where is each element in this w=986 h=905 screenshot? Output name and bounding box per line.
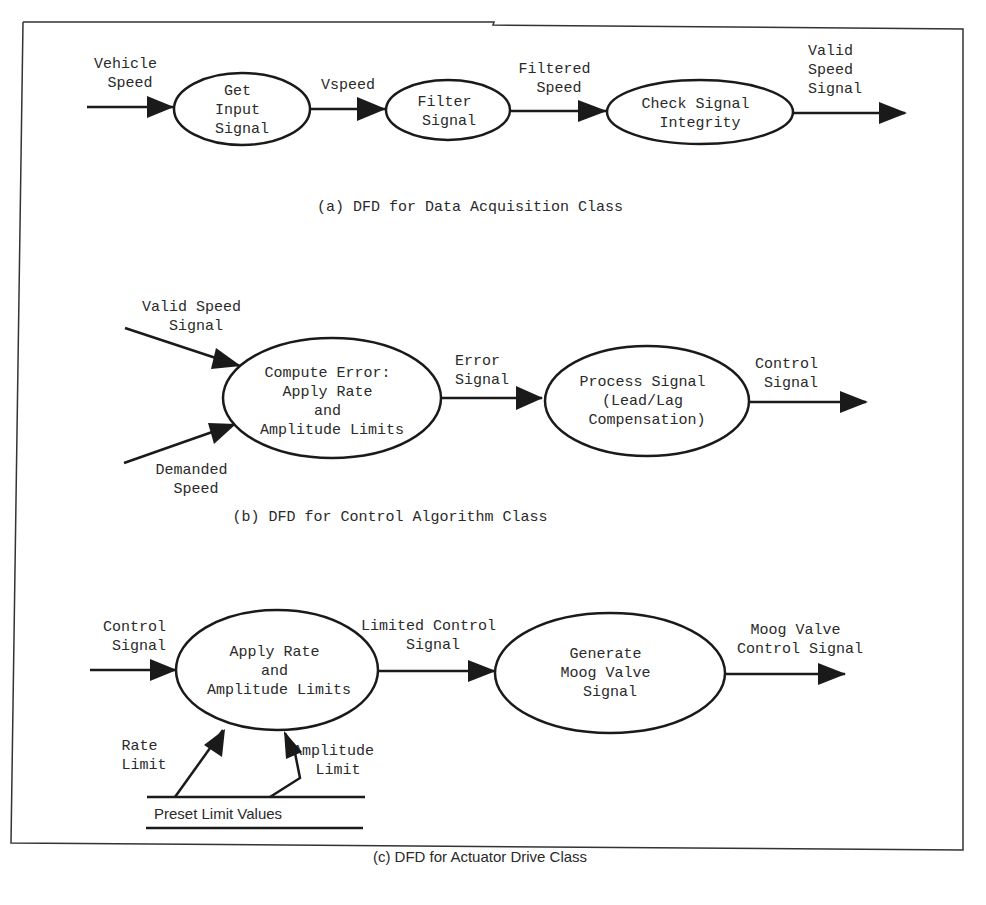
- panel-b: Valid Speed Signal Demanded Speed Comput…: [124, 299, 868, 526]
- flow-label-filtered-speed: Filtered Speed: [518, 61, 599, 97]
- flow-label-valid-speed-signal: Valid Speed Signal: [142, 299, 250, 335]
- arrowhead-icon: [516, 386, 543, 410]
- flow-label-moog-valve-control-signal: Moog Valve Control Signal: [737, 622, 863, 658]
- panel-a: Vehicle Speed Get Input Signal Vspeed Fi…: [87, 43, 907, 216]
- process-label: Process Signal (Lead/Lag Compensation): [579, 374, 714, 429]
- flow-label-control-signal: Control Signal: [755, 356, 827, 392]
- arrowhead-icon: [840, 391, 868, 413]
- flow-label-valid-speed-signal: Valid Speed Signal: [808, 43, 862, 98]
- arrowhead-icon: [468, 660, 496, 682]
- arrowhead-icon: [818, 663, 846, 685]
- flow-label-control-signal: Control Signal: [103, 619, 175, 655]
- panel-caption: (a) DFD for Data Acquisition Class: [317, 199, 623, 216]
- flow-label-limited-control-signal: Limited Control Signal: [361, 618, 505, 654]
- flow-label-demanded-speed: Demanded Speed: [155, 462, 236, 498]
- process-label: Check Signal Integrity: [641, 96, 758, 132]
- flow-label-vspeed: Vspeed: [321, 77, 375, 94]
- flow-label-amplitude-limit: Amplitude Limit: [293, 743, 383, 779]
- arrowhead-icon: [211, 348, 241, 369]
- arrowhead-icon: [147, 96, 174, 118]
- figure-frame: [11, 22, 963, 850]
- process-label: Generate Moog Valve Signal: [560, 646, 659, 701]
- flow-label-error-signal: Error Signal: [455, 353, 509, 389]
- process-label: Apply Rate and Amplitude Limits: [207, 644, 351, 699]
- arrowhead-icon: [150, 659, 177, 681]
- panel-c: Control Signal Apply Rate and Amplitude …: [90, 610, 863, 865]
- arrowhead-icon: [879, 102, 907, 124]
- panel-caption: (b) DFD for Control Algorithm Class: [232, 509, 547, 526]
- dfd-canvas: Vehicle Speed Get Input Signal Vspeed Fi…: [0, 0, 986, 905]
- arrowhead-icon: [578, 100, 607, 122]
- arrowhead-icon: [357, 97, 386, 121]
- data-store-label: Preset Limit Values: [154, 805, 282, 822]
- arrowhead-icon: [208, 423, 236, 444]
- panel-caption: (c) DFD for Actuator Drive Class: [373, 848, 587, 865]
- dfd-figure: Vehicle Speed Get Input Signal Vspeed Fi…: [0, 0, 986, 905]
- flow-label-vehicle-speed: Vehicle Speed: [94, 56, 166, 92]
- process-label: Filter Signal: [417, 94, 480, 130]
- process-label: Get Input Signal: [215, 83, 269, 138]
- process-label: Compute Error: Apply Rate and Amplitude …: [260, 365, 404, 439]
- flow-label-rate-limit: Rate Limit: [121, 738, 166, 774]
